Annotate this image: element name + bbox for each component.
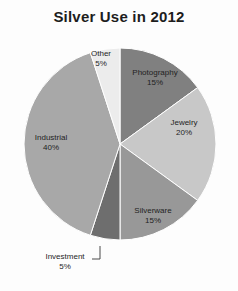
slice-label-other-name: Other: [79, 49, 123, 59]
slice-label-other: Other 5%: [79, 49, 123, 69]
slice-label-industrial: Industrial 40%: [22, 133, 80, 153]
slice-label-silverware: Silverware 15%: [122, 206, 184, 226]
slice-label-silverware-name: Silverware: [122, 206, 184, 216]
slice-label-photography: Photography 15%: [124, 68, 186, 88]
slice-label-jewelry-name: Jewelry: [160, 118, 208, 128]
slice-label-investment-value: 5%: [34, 262, 96, 272]
slice-label-investment: Investment 5%: [34, 252, 96, 272]
slice-label-investment-name: Investment: [34, 252, 96, 262]
slice-label-industrial-name: Industrial: [22, 133, 80, 143]
slice-label-silverware-value: 15%: [122, 216, 184, 226]
slice-label-photography-value: 15%: [124, 78, 186, 88]
pie-chart-figure: Silver Use in 2012 Other 5% Photography …: [0, 0, 238, 291]
slice-label-photography-name: Photography: [124, 68, 186, 78]
slice-label-jewelry-value: 20%: [160, 128, 208, 138]
slice-label-industrial-value: 40%: [22, 143, 80, 153]
slice-label-other-value: 5%: [79, 59, 123, 69]
slice-label-jewelry: Jewelry 20%: [160, 118, 208, 138]
